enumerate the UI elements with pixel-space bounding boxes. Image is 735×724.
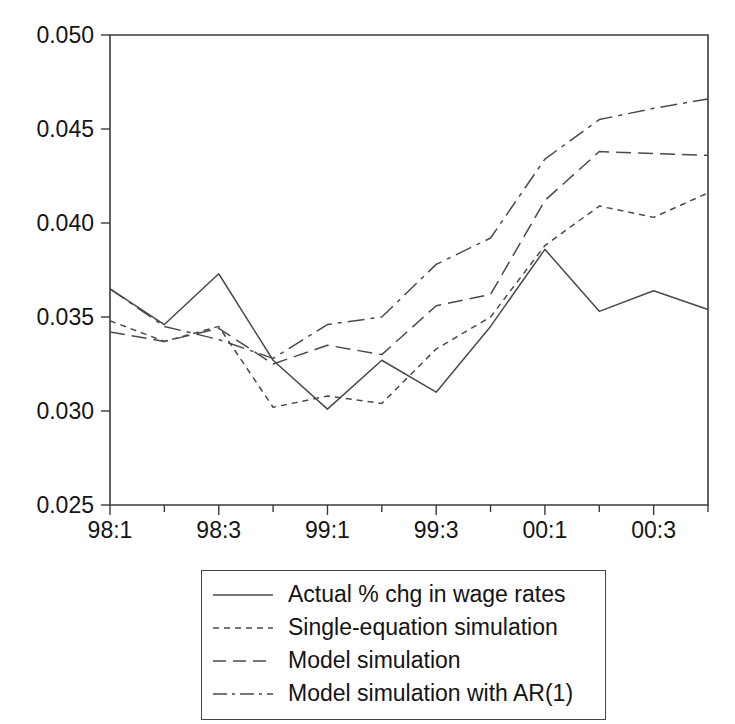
legend-label-actual: Actual % chg in wage rates (288, 581, 565, 608)
x-axis-tick-label: 99:3 (414, 517, 459, 543)
series-line (110, 152, 708, 364)
y-axis-tick-label: 0.040 (36, 210, 94, 236)
line-chart-figure: 0.0500.0450.0400.0350.0300.025 98:198:39… (0, 0, 735, 724)
x-axis-tick-labels: 98:198:399:199:300:100:3 (88, 517, 676, 543)
chart-legend: Actual % chg in wage rates Single-equati… (201, 570, 606, 720)
legend-line-sample-dashdot (212, 687, 274, 701)
y-axis-tick-label: 0.030 (36, 398, 94, 424)
data-series-group (110, 99, 708, 409)
legend-line-sample-dashed (212, 654, 274, 668)
legend-item: Single-equation simulation (212, 611, 595, 644)
series-line (110, 99, 708, 358)
y-axis-tick-label: 0.035 (36, 304, 94, 330)
x-axis-tick-label: 98:1 (88, 517, 133, 543)
legend-line-sample-solid (212, 588, 274, 602)
legend-item: Model simulation (212, 644, 595, 677)
x-axis-tick-label: 99:1 (305, 517, 350, 543)
series-line (110, 193, 708, 407)
chart-plot-area: 0.0500.0450.0400.0350.0300.025 98:198:39… (0, 0, 735, 545)
x-axis-tick-label: 98:3 (196, 517, 241, 543)
legend-item: Model simulation with AR(1) (212, 677, 595, 710)
x-axis-tick-label: 00:1 (523, 517, 568, 543)
x-axis-tick-label: 00:3 (631, 517, 676, 543)
y-axis-tick-labels: 0.0500.0450.0400.0350.0300.025 (36, 22, 94, 518)
chart-svg: 0.0500.0450.0400.0350.0300.025 98:198:39… (0, 0, 735, 545)
plot-frame (110, 35, 708, 505)
legend-item: Actual % chg in wage rates (212, 578, 595, 611)
legend-label-single-equation: Single-equation simulation (288, 614, 558, 641)
y-axis-tick-label: 0.045 (36, 116, 94, 142)
legend-line-sample-dotted (212, 621, 274, 635)
plot-border (110, 35, 708, 505)
axis-ticks (101, 35, 708, 515)
legend-label-model-ar1: Model simulation with AR(1) (288, 680, 573, 707)
y-axis-tick-label: 0.025 (36, 492, 94, 518)
series-line (110, 249, 708, 409)
y-axis-tick-label: 0.050 (36, 22, 94, 48)
legend-label-model-simulation: Model simulation (288, 647, 461, 674)
